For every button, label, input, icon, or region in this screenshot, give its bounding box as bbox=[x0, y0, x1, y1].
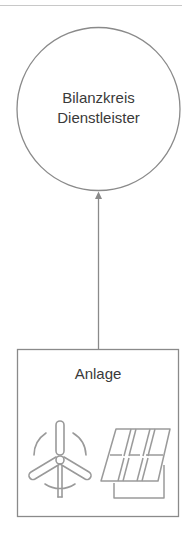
arrow-edge bbox=[95, 192, 102, 350]
service-provider-label-line1: Bilanzkreis bbox=[17, 88, 180, 108]
service-provider-label-line2: Dienstleister bbox=[17, 108, 180, 128]
wind-turbine-icon bbox=[29, 421, 91, 497]
arrow-head-icon bbox=[95, 192, 102, 200]
diagram-canvas bbox=[0, 0, 191, 543]
plant-label: Anlage bbox=[17, 364, 179, 384]
service-provider-label: Bilanzkreis Dienstleister bbox=[17, 88, 180, 128]
solar-panel-icon bbox=[101, 429, 170, 498]
